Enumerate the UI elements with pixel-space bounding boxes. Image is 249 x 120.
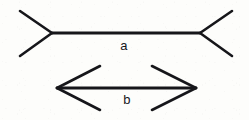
segment-a-fin-top-left [20,11,52,33]
segment-a-fin-bottom-left [20,33,52,56]
segment-b-fin-top-right [152,66,196,88]
segment-a-group: a [20,11,232,56]
muller-lyer-figure: a b [0,0,249,120]
segment-a-fin-bottom-right [200,33,232,56]
segment-b-fin-bottom-left [57,88,100,110]
illusion-canvas: a b [0,0,249,120]
segment-b-label: b [123,92,130,107]
segment-b-fin-bottom-right [152,88,196,110]
segment-b-fin-top-left [57,66,100,88]
segment-a-label: a [120,38,128,53]
segment-a-fin-top-right [200,11,232,33]
segment-b-group: b [57,66,196,110]
